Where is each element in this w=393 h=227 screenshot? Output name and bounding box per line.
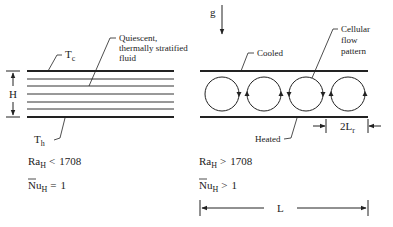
fluid-label-line-3: fluid — [119, 53, 136, 63]
tc-leader-line — [48, 55, 62, 71]
left-nusselt-value: NuH=1 — [28, 179, 66, 194]
cooled-label: Cooled — [257, 48, 283, 58]
length-dimension — [200, 200, 368, 216]
th-leader-line — [54, 118, 65, 140]
heated-leader-line — [284, 118, 297, 139]
convection-cells — [205, 77, 365, 111]
left-panel-stratified: H Tc Quiescent, thermally stratified flu… — [6, 33, 188, 194]
cell-label-line-2: flow — [341, 35, 358, 45]
convection-cell-2 — [247, 77, 281, 111]
hot-temp-label: Th — [34, 133, 45, 148]
cell-width-label: 2Lr — [340, 120, 355, 135]
right-nusselt-value: NuH>1 — [199, 179, 237, 194]
length-label: L — [277, 202, 284, 214]
right-rayleigh-criterion: RaH>1708 — [199, 155, 253, 170]
convection-cell-3 — [289, 77, 323, 111]
cell-label-line-3: pattern — [341, 46, 366, 56]
left-rayleigh-criterion: RaH<1708 — [28, 155, 82, 170]
cooled-leader-line — [241, 53, 254, 71]
fluid-label-line-2: thermally stratified — [119, 43, 188, 53]
right-panel-convection: g Cooled Cellular flow pattern — [199, 5, 381, 216]
gravity-label: g — [210, 6, 216, 18]
cell-rotation-arrows — [237, 91, 368, 97]
convection-cell-1 — [205, 77, 239, 111]
heated-label: Heated — [255, 134, 281, 144]
height-label: H — [9, 88, 17, 100]
stratified-layers — [27, 79, 174, 109]
convection-cell-4 — [331, 77, 365, 111]
cell-label-line-1: Cellular — [341, 24, 370, 34]
convection-diagram: H Tc Quiescent, thermally stratified flu… — [0, 0, 393, 227]
fluid-label-line-1: Quiescent, — [119, 33, 157, 43]
cold-temp-label: Tc — [65, 48, 76, 63]
